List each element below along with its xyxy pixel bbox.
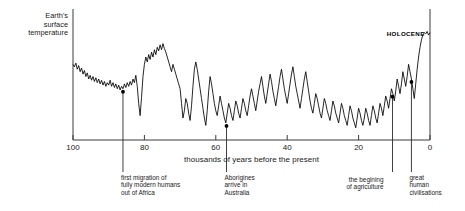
holocene-label: HOLOCENE bbox=[387, 30, 425, 37]
annotation-label-line: first migration of bbox=[121, 174, 180, 181]
annotation-label-beginning-agriculture: the beginingof agriculture bbox=[347, 176, 384, 191]
annotation-label-aborigines-australia: Aboriginesarrive inAustralia bbox=[225, 174, 255, 196]
x-axis-tick-label: 60 bbox=[196, 143, 236, 152]
annotation-label-line: the begining bbox=[347, 176, 384, 183]
annotation-markers bbox=[121, 80, 413, 128]
annotation-label-line: arrive in bbox=[225, 181, 255, 188]
annotation-label-line: Aborigines bbox=[225, 174, 255, 181]
x-axis-tick-label: 100 bbox=[53, 143, 93, 152]
annotation-marker bbox=[391, 95, 395, 99]
annotation-label-first-migration: first migration offully modern humansout… bbox=[121, 174, 180, 196]
annotation-marker bbox=[410, 80, 414, 84]
annotation-label-great-civilisations: greathumancivilisations bbox=[409, 174, 441, 196]
x-axis-tick-label: 20 bbox=[339, 143, 379, 152]
x-axis-tick-label: 0 bbox=[410, 143, 450, 152]
x-axis-title: thousands of years before the present bbox=[73, 155, 430, 164]
annotation-label-line: of agriculture bbox=[347, 183, 384, 190]
y-axis-label-line-3: temperature bbox=[14, 29, 68, 38]
temperature-curve bbox=[73, 31, 430, 127]
annotation-label-line: Australia bbox=[225, 189, 255, 196]
x-axis-tick-label: 80 bbox=[124, 143, 164, 152]
annotation-marker bbox=[225, 124, 229, 128]
annotation-label-line: great bbox=[409, 174, 441, 181]
x-axis-ticks bbox=[73, 135, 430, 140]
y-axis-label: Earth's surface temperature bbox=[14, 12, 68, 38]
annotation-marker bbox=[121, 90, 125, 94]
annotation-label-line: fully modern humans bbox=[121, 181, 180, 188]
figure-root: Earth's surface temperature HOLOCENE 100… bbox=[0, 0, 465, 211]
annotation-label-line: out of Africa bbox=[121, 189, 180, 196]
x-axis-tick-label: 40 bbox=[267, 143, 307, 152]
annotation-label-line: human bbox=[409, 181, 441, 188]
annotation-label-line: civilisations bbox=[409, 189, 441, 196]
